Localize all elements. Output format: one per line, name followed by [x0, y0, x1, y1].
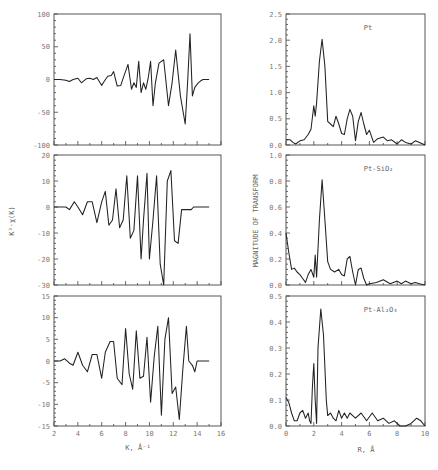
plot-frame — [54, 155, 221, 285]
x-tick-label: 10 — [421, 430, 429, 438]
x-tick-label: 4 — [339, 430, 343, 438]
y-tick-label: -30 — [37, 282, 50, 290]
panel-left-bottom: -15-10-5051015246810121416 — [37, 293, 225, 439]
y-tick-label: 0.0 — [269, 282, 282, 290]
y-tick-label: 0.5 — [269, 115, 282, 123]
y-tick-label: 1.0 — [269, 89, 282, 97]
x-tick-label: 12 — [169, 430, 177, 438]
y-tick-label: 100 — [37, 11, 50, 19]
panel-right-bottom: 0.00.10.20.30.40.50246810Pt-Al₂O₃ — [269, 293, 429, 439]
y-tick-label: 50 — [42, 43, 50, 51]
x-tick-label: 6 — [367, 430, 371, 438]
panel-left-middle: -30-20-1001020 — [37, 152, 221, 290]
data-trace — [54, 171, 209, 285]
y-tick-label: -10 — [37, 230, 50, 238]
y-tick-label: 5 — [46, 336, 50, 344]
y-tick-label: -50 — [37, 109, 50, 117]
y-tick-label: 10 — [42, 178, 50, 186]
data-trace — [286, 180, 425, 285]
y-tick-label: -5 — [42, 379, 50, 387]
data-trace — [54, 318, 209, 420]
x-tick-label: 8 — [123, 430, 127, 438]
y-tick-label: 0 — [46, 358, 50, 366]
sample-label: Pt-SiO₂ — [364, 165, 394, 173]
y-tick-label: 2.5 — [269, 11, 282, 19]
y-tick-label: 0.0 — [269, 423, 282, 431]
y-tick-label: 0.4 — [269, 230, 282, 238]
y-tick-label: 0.5 — [269, 293, 282, 301]
y-tick-label: 0.8 — [269, 178, 282, 186]
x-tick-label: 2 — [52, 430, 56, 438]
y-tick-label: 0.2 — [269, 371, 282, 379]
y-tick-label: 15 — [42, 293, 50, 301]
y-tick-label: 1.0 — [269, 152, 282, 160]
exafs-figure: -100-50050100-30-20-1001020-15-10-505101… — [0, 0, 438, 470]
panel-right-middle: 0.00.20.40.60.81.0Pt-SiO₂ — [269, 152, 425, 290]
sample-label: Pt-Al₂O₃ — [364, 306, 398, 314]
plot-frame — [54, 296, 221, 426]
panel-left-top: -100-50050100 — [33, 11, 221, 150]
plot-frame — [286, 14, 425, 145]
x-tick-label: 0 — [284, 430, 288, 438]
y-tick-label: -20 — [37, 256, 50, 264]
panel-right-top: 0.00.51.01.52.02.5Pt — [269, 11, 425, 150]
y-tick-label: 0.0 — [269, 142, 282, 150]
x-tick-label: 6 — [100, 430, 104, 438]
left-x-axis-title: K, Å⁻¹ — [125, 443, 150, 452]
y-tick-label: 0 — [46, 76, 50, 84]
data-trace — [286, 309, 425, 426]
sample-label: Pt — [364, 24, 372, 32]
y-tick-label: 20 — [42, 152, 50, 160]
x-tick-label: 8 — [395, 430, 399, 438]
x-tick-label: 16 — [217, 430, 225, 438]
plot-panels: -100-50050100-30-20-1001020-15-10-505101… — [33, 11, 429, 439]
y-tick-label: 0.1 — [269, 397, 282, 405]
data-trace — [54, 34, 209, 124]
y-tick-label: 0 — [46, 204, 50, 212]
y-tick-label: 0.3 — [269, 345, 282, 353]
y-tick-label: 1.5 — [269, 63, 282, 71]
right-x-axis-title: R, Å — [358, 445, 376, 454]
left-y-axis-title: K³·χ(K) — [8, 206, 16, 236]
data-trace — [286, 39, 425, 145]
x-tick-label: 10 — [145, 430, 153, 438]
x-tick-label: 14 — [193, 430, 201, 438]
y-tick-label: 0.2 — [269, 256, 282, 264]
y-tick-label: -100 — [33, 142, 50, 150]
plot-frame — [286, 155, 425, 285]
x-tick-label: 2 — [312, 430, 316, 438]
y-tick-label: -10 — [37, 401, 50, 409]
plot-frame — [286, 296, 425, 426]
y-tick-label: 2.0 — [269, 37, 282, 45]
x-tick-label: 4 — [76, 430, 80, 438]
right-y-axis-title: MAGNITUDE OF TRANSFORM — [252, 175, 260, 268]
y-tick-label: 0.6 — [269, 204, 282, 212]
y-tick-label: 10 — [42, 314, 50, 322]
y-tick-label: 0.4 — [269, 319, 282, 327]
y-tick-label: -15 — [37, 423, 50, 431]
